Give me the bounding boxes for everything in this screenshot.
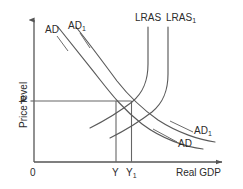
ad-as-chart: Price level P 0 Y Y1 Real GDP AD AD1 LRA… <box>0 0 243 189</box>
leader-line-ad1-bottom <box>170 121 193 132</box>
price-level-tick-label: P <box>20 95 27 106</box>
origin-label: 0 <box>30 167 36 178</box>
curve-label-lras1-top-base: LRAS <box>166 12 192 23</box>
curve-label-ad1-bottom-base: AD <box>194 125 208 136</box>
output-Y1-subscript: 1 <box>133 172 137 179</box>
curve-label-ad1-bottom-subscript: 1 <box>208 130 212 137</box>
output-Y1-tick-label: Y1 <box>126 167 137 179</box>
curve-label-ad-bottom: AD <box>178 138 192 149</box>
leader-line-ad-bottom <box>153 129 177 142</box>
x-axis-label: Real GDP <box>176 167 221 178</box>
curve-label-ad1-bottom: AD1 <box>194 125 212 137</box>
curve-label-ad1-top: AD1 <box>68 20 86 32</box>
output-Y1-base: Y <box>126 167 133 178</box>
curve-label-ad1-top-subscript: 1 <box>82 25 86 32</box>
curve-label-lras-top: LRAS <box>135 12 161 23</box>
curve-label-ad-top: AD <box>45 24 59 35</box>
curve-label-lras1-top: LRAS1 <box>166 12 196 24</box>
chart-canvas <box>0 0 243 189</box>
curve-label-lras1-top-subscript: 1 <box>192 17 196 24</box>
curve-ad <box>58 27 203 149</box>
curve-label-ad1-top-base: AD <box>68 20 82 31</box>
output-Y-tick-label: Y <box>112 167 119 178</box>
leader-line-ad1-top <box>80 33 90 48</box>
